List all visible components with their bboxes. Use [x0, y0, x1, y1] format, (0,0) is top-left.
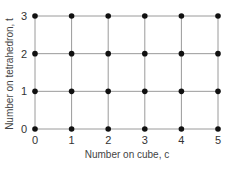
- data-points: [32, 13, 221, 132]
- data-point: [142, 126, 148, 132]
- data-point: [142, 51, 148, 57]
- data-point: [215, 51, 221, 57]
- data-point: [179, 13, 185, 19]
- data-point: [142, 89, 148, 95]
- data-point: [32, 51, 38, 57]
- data-point: [69, 13, 75, 19]
- y-tick-label: 0: [21, 123, 27, 135]
- data-point: [105, 89, 111, 95]
- y-axis-ticks: 0123: [21, 10, 27, 135]
- data-point: [179, 126, 185, 132]
- data-point: [69, 89, 75, 95]
- y-axis-label: Number on tetrahedron, t: [4, 18, 15, 130]
- data-point: [105, 13, 111, 19]
- data-point: [105, 126, 111, 132]
- data-point: [69, 51, 75, 57]
- data-point: [215, 89, 221, 95]
- grid-lines: [35, 16, 218, 129]
- x-tick-label: 5: [215, 134, 221, 146]
- x-tick-label: 2: [105, 134, 111, 146]
- y-tick-label: 1: [21, 85, 27, 97]
- x-tick-label: 0: [32, 134, 38, 146]
- data-point: [215, 126, 221, 132]
- data-point: [32, 126, 38, 132]
- x-tick-label: 1: [69, 134, 75, 146]
- data-point: [142, 13, 148, 19]
- data-point: [215, 13, 221, 19]
- data-point: [105, 51, 111, 57]
- data-point: [69, 126, 75, 132]
- data-point: [179, 89, 185, 95]
- y-tick-label: 2: [21, 48, 27, 60]
- data-point: [32, 13, 38, 19]
- sample-space-grid-chart: 012345 0123 Number on cube, c Number on …: [0, 0, 229, 169]
- data-point: [179, 51, 185, 57]
- x-tick-label: 4: [178, 134, 184, 146]
- x-axis-ticks: 012345: [32, 134, 221, 146]
- data-point: [32, 89, 38, 95]
- y-tick-label: 3: [21, 10, 27, 22]
- x-axis-label: Number on cube, c: [85, 149, 170, 160]
- x-tick-label: 3: [142, 134, 148, 146]
